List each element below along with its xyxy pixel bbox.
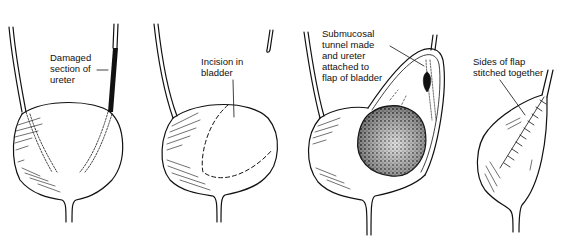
panel-2-bladder	[154, 24, 277, 222]
label-submucosal-tunnel: Submucosal tunnel made and ureter attach…	[322, 28, 382, 83]
panel-4-bladder	[477, 70, 553, 232]
label-incision: Incision in bladder	[201, 56, 243, 78]
label-flap-stitched: Sides of flap stitched together	[473, 56, 543, 78]
diagram-stage: Damaged section of ureter Incision in bl…	[0, 0, 569, 250]
label-damaged-section: Damaged section of ureter	[50, 52, 91, 85]
illustration	[0, 0, 569, 250]
